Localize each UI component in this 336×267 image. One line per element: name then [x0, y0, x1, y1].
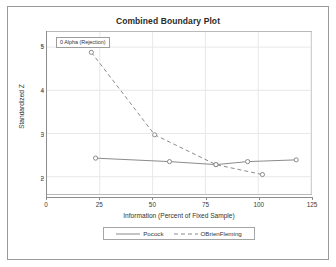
x-tick-label: 75: [202, 201, 209, 208]
plot-canvas: [47, 32, 311, 194]
series-layer: [89, 50, 298, 176]
x-tick-mark: [99, 197, 100, 200]
data-point: [167, 160, 171, 164]
x-tick-mark: [152, 197, 153, 200]
data-point: [89, 50, 93, 54]
x-tick-label: 0: [44, 201, 48, 208]
series-line-pocock: [96, 158, 297, 164]
y-tick-mark: [41, 90, 44, 91]
gridlines: [47, 32, 311, 194]
chart-screenshot: Combined Boundary Plot 0 Alpha (Rejectio…: [0, 0, 336, 267]
x-tick-mark: [312, 197, 313, 200]
x-tick-label: 25: [96, 201, 103, 208]
x-tick-label: 100: [253, 201, 264, 208]
y-tick-mark: [41, 46, 44, 47]
x-tick-mark: [206, 197, 207, 200]
legend-item-pocock: Pocock: [116, 230, 163, 237]
chart-panel: Combined Boundary Plot 0 Alpha (Rejectio…: [7, 6, 329, 260]
chart-legend: Pocock OBrienFleming: [103, 227, 255, 240]
x-tick-mark: [259, 197, 260, 200]
data-point: [153, 133, 157, 137]
legend-item-obrienfleming: OBrienFleming: [174, 230, 242, 237]
y-tick-mark: [41, 134, 44, 135]
legend-swatch-dashed-icon: [174, 231, 198, 237]
plot-area: 0 Alpha (Rejection): [46, 31, 312, 195]
data-point: [260, 172, 264, 176]
legend-label-pocock: Pocock: [143, 230, 163, 237]
x-tick-label: 50: [149, 201, 156, 208]
plot-inner: [47, 32, 311, 194]
x-tick-label: 125: [307, 201, 318, 208]
chart-title: Combined Boundary Plot: [8, 16, 328, 26]
data-point: [246, 160, 250, 164]
data-point: [294, 158, 298, 162]
alpha-rejection-annotation: 0 Alpha (Rejection): [56, 37, 110, 48]
y-axis-ticks: 2345: [26, 31, 44, 195]
series-line-obrienfleming: [91, 52, 262, 174]
y-axis-label: Standardized Z: [18, 57, 25, 157]
data-point: [93, 156, 97, 160]
y-tick-mark: [41, 178, 44, 179]
data-point: [214, 163, 218, 167]
legend-label-obrienfleming: OBrienFleming: [201, 230, 242, 237]
x-tick-mark: [46, 197, 47, 200]
x-axis-ticks: 0255075100125: [46, 197, 312, 211]
legend-swatch-solid-icon: [116, 231, 140, 237]
x-axis-label: Information (Percent of Fixed Sample): [46, 212, 312, 219]
y-axis-line: [46, 31, 47, 197]
